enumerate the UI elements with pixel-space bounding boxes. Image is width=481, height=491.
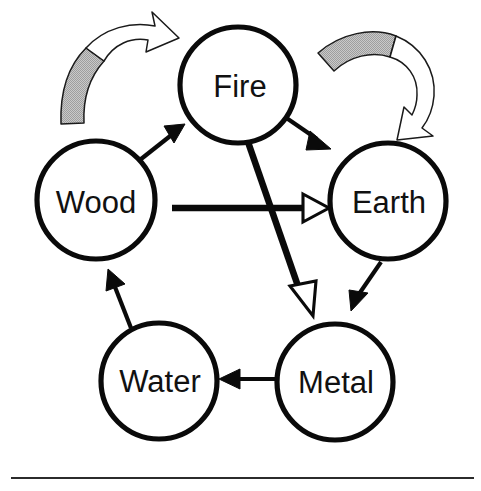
right-cycle-arrow [318,32,434,140]
earth-to-metal-arrow [349,262,381,311]
earth-to-metal-shaft [359,262,381,294]
wood-to-fire-arrow [136,124,185,163]
left-cycle-arrow [61,12,179,124]
wuxing-diagram-canvas: Fire Wood Earth Water Metal [0,0,481,491]
right-cycle-arrow-head [390,36,434,140]
fire-to-earth-arrow [285,117,331,150]
node-wood-label: Wood [56,185,136,220]
right-cycle-arrow-tail [318,32,396,71]
wood-to-earth-hollow-head-icon [303,194,329,222]
fire-to-metal-arrow [248,142,316,316]
node-water[interactable]: Water [101,323,217,439]
fire-to-metal-shaft [248,142,299,289]
water-to-wood-arrow [106,269,131,328]
node-fire[interactable]: Fire [180,27,296,143]
node-fire-label: Fire [213,69,266,104]
wuxing-diagram: Fire Wood Earth Water Metal [0,0,481,491]
metal-to-water-head-icon [219,369,240,389]
left-cycle-arrow-head [86,12,179,61]
node-wood[interactable]: Wood [37,141,155,259]
node-earth-label: Earth [352,185,426,220]
water-to-wood-shaft [115,287,131,328]
node-metal[interactable]: Metal [277,324,393,440]
left-cycle-arrow-tail [61,48,104,124]
water-to-wood-head-icon [106,269,125,291]
fire-to-metal-hollow-head-icon [290,281,316,316]
wood-to-fire-shaft [136,133,174,163]
metal-to-water-arrow [219,369,278,389]
node-metal-label: Metal [298,365,374,400]
node-earth[interactable]: Earth [330,143,446,259]
wood-to-earth-arrow [172,194,329,222]
node-water-label: Water [119,364,201,399]
earth-to-metal-head-icon [349,290,368,311]
fire-to-earth-head-icon [306,131,331,150]
